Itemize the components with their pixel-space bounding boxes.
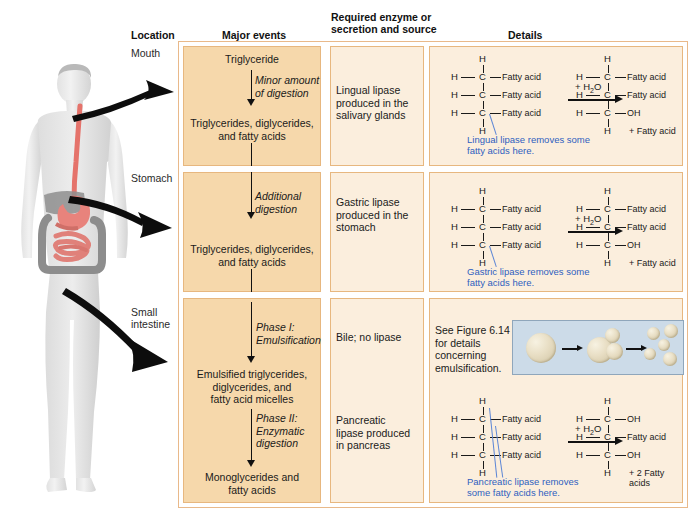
stomach-process-line2: digestion [255, 203, 321, 216]
intestine-end-line2: fatty acids [181, 484, 323, 497]
mouth-enzyme-text: Lingual lipase produced in the salivary … [336, 84, 424, 122]
intestine-note: Pancreatic lipase removes some fatty aci… [467, 476, 667, 498]
column-header-enzyme-line2: secretion and source [331, 24, 437, 36]
location-label-small-intestine-line1: Small [131, 306, 175, 318]
stomach-flow-arrowhead [247, 212, 255, 219]
bond [461, 419, 475, 420]
mouth-reactant-c1: C [479, 72, 486, 82]
stomach-product-branch1: Fatty acid [627, 204, 666, 214]
intestine-product-h2: H [576, 432, 583, 442]
cell-intestine-enzyme [330, 298, 424, 503]
bond [615, 455, 626, 456]
bond [586, 113, 600, 114]
stomach-reactant-h3: H [451, 240, 458, 250]
stomach-end-products: Triglycerides, diglycerides, and fatty a… [181, 243, 323, 268]
mouth-to-stomach-line [251, 143, 252, 166]
stomach-reactant-c2: C [479, 222, 486, 232]
intestine-figure-ref-line2: for details [435, 337, 515, 350]
intestine-figure-ref-line1: See Figure 6.14 [435, 324, 515, 337]
micelle-2 [664, 324, 678, 338]
mouth-product-c2: C [604, 90, 611, 100]
bond [615, 209, 626, 210]
micelle-1 [647, 327, 660, 340]
mouth-product-c1: C [604, 72, 611, 82]
mouth-process-line2: of digestion [255, 87, 321, 100]
stomach-to-intestine-line [251, 269, 252, 292]
intestine-note-line1: Pancreatic lipase removes [467, 476, 667, 487]
bond [615, 113, 626, 114]
intestine-reactant-h3: H [451, 450, 458, 460]
mouth-reaction-diagram: H H C Fatty acid H C Fatty acid H C Fatt… [429, 46, 683, 166]
stomach-flow-line [251, 172, 252, 214]
intestine-product-c3: C [604, 450, 611, 460]
emulsification-illustration [512, 320, 684, 375]
intestine-mid-line2: diglycerides, and [181, 381, 323, 394]
intestine-reactant-branch3: Fatty acid [502, 450, 541, 460]
stomach-product-h1: H [576, 204, 583, 214]
mouth-reactant-h2: H [451, 90, 458, 100]
stomach-product-c3: C [604, 240, 611, 250]
column-header-enzyme: Required enzyme or secretion and source [331, 12, 437, 35]
intestine-phase2-flow-line [251, 409, 252, 462]
bond [586, 419, 600, 420]
intestine-phase1-line2: Emulsification [256, 334, 322, 347]
mouth-product-branch3: OH [627, 108, 641, 118]
mouth-end-products: Triglycerides, diglycerides, and fatty a… [181, 117, 323, 142]
column-header-enzyme-line1: Required enzyme or [331, 12, 437, 24]
stomach-reactant-c3: C [479, 240, 486, 250]
intestine-product-h1: H [576, 414, 583, 424]
bond [586, 95, 600, 96]
stomach-note-leader-line [489, 246, 497, 267]
mouth-reactant-c2: C [479, 90, 486, 100]
column-header-major-events: Major events [222, 30, 286, 42]
intestine-figure-ref-line4: emulsification. [435, 362, 515, 375]
bond [586, 455, 600, 456]
column-header-details: Details [508, 30, 542, 42]
mouth-flow-arrowhead [247, 99, 255, 106]
intestine-reactant-top-h: H [479, 396, 486, 406]
arrow-to-stomach-head [138, 212, 172, 238]
intestine-reactant-branch2: Fatty acid [502, 432, 541, 442]
micelle-5 [663, 352, 677, 366]
stomach-reactant-h1: H [451, 204, 458, 214]
mouth-reactant-branch1: Fatty acid [502, 72, 541, 82]
mouth-enzyme-line1: Lingual lipase [336, 84, 424, 97]
mouth-product-branch2: Fatty acid [627, 90, 666, 100]
bond [461, 245, 475, 246]
arrow-to-small-intestine-head [128, 338, 168, 372]
bond [461, 227, 475, 228]
intestine-reactant-c1: C [479, 414, 486, 424]
mouth-reactant-h1: H [451, 72, 458, 82]
location-label-mouth: Mouth [131, 47, 160, 59]
intestine-product-top-h: H [604, 396, 611, 406]
intestine-enzyme-phase2-line1: Pancreatic [336, 414, 424, 427]
intestine-reactant-h2: H [451, 432, 458, 442]
bond [490, 227, 501, 228]
intestine-phase2-label: Phase II: Enzymatic digestion [256, 412, 322, 450]
intestine-end-products: Monoglycerides and fatty acids [181, 471, 323, 496]
bond [461, 113, 475, 114]
intestine-reactant-c3: C [479, 450, 486, 460]
intestine-product-c2: C [604, 432, 611, 442]
mouth-note: Lingual lipase removes some fatty acids … [467, 134, 667, 156]
stomach-note-line1: Gastric lipase removes some [467, 266, 667, 277]
stomach-reactant-branch2: Fatty acid [502, 222, 541, 232]
mouth-reactant-top-h: H [479, 54, 486, 64]
intestine-end-line1: Monoglycerides and [181, 471, 323, 484]
bond [586, 77, 600, 78]
intestine-figure-ref-line3: concerning [435, 349, 515, 362]
stomach-reaction-arrowhead [615, 227, 623, 235]
bond [461, 209, 475, 210]
intestine-reactant-h1: H [451, 414, 458, 424]
bond [615, 95, 626, 96]
stomach-process-label: Additional digestion [255, 190, 321, 215]
intestine-phase1-flow-line [251, 302, 252, 358]
intestine-phase2-line3: digestion [256, 437, 322, 450]
mouth-reactant-c3: C [479, 108, 486, 118]
stomach-enzyme-line2: produced in the [336, 209, 424, 222]
location-label-small-intestine-line2: intestine [131, 318, 175, 330]
fat-droplet-large [526, 333, 556, 363]
bond [615, 437, 626, 438]
intestine-enzyme-phase2-line3: in pancreas [336, 439, 424, 452]
bond [490, 113, 501, 114]
